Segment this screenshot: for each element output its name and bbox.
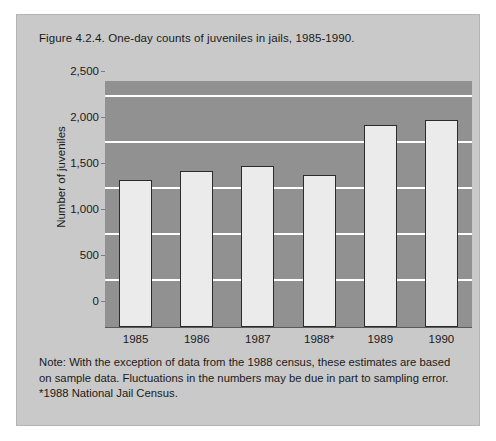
figure-note: Note: With the exception of data from th… [39,355,464,402]
bar-chart: Number of juveniles 05001,0001,5002,0002… [17,55,481,315]
x-axis-tick-label: 1988* [289,333,349,345]
figure-title: Figure 4.2.4. One-day counts of juvenile… [39,32,459,44]
x-axis-tick-label: 1985 [106,333,166,345]
y-axis-tick-label: 1,500 [25,157,99,169]
figure-card: Figure 4.2.4. One-day counts of juvenile… [16,14,480,426]
x-axis-tick-label: 1989 [350,333,410,345]
bar [241,166,274,327]
bar [180,171,213,327]
x-axis-baseline [105,327,472,328]
plot-area [105,81,472,327]
x-axis-tick-label: 1986 [167,333,227,345]
y-axis-tick-label: 0 [25,295,99,307]
y-axis-tick-labels: 05001,0001,5002,0002,500 [17,71,99,301]
x-axis-tick-label: 1990 [411,333,471,345]
bar [425,120,458,327]
y-axis-tick-label: 2,000 [25,111,99,123]
x-axis-tick-labels: 1985198619871988*19891990 [105,333,472,353]
y-axis-tick-label: 1,000 [25,203,99,215]
bar [303,175,336,327]
x-axis-tick-label: 1987 [228,333,288,345]
figure-page: Figure 4.2.4. One-day counts of juvenile… [0,0,496,441]
y-axis-tick-label: 500 [25,249,99,261]
plot-inner [105,97,472,327]
bar [364,125,397,327]
y-axis-tick-label: 2,500 [25,65,99,77]
bar [119,180,152,327]
bar-series [105,97,472,327]
y-axis-tick [101,71,105,72]
